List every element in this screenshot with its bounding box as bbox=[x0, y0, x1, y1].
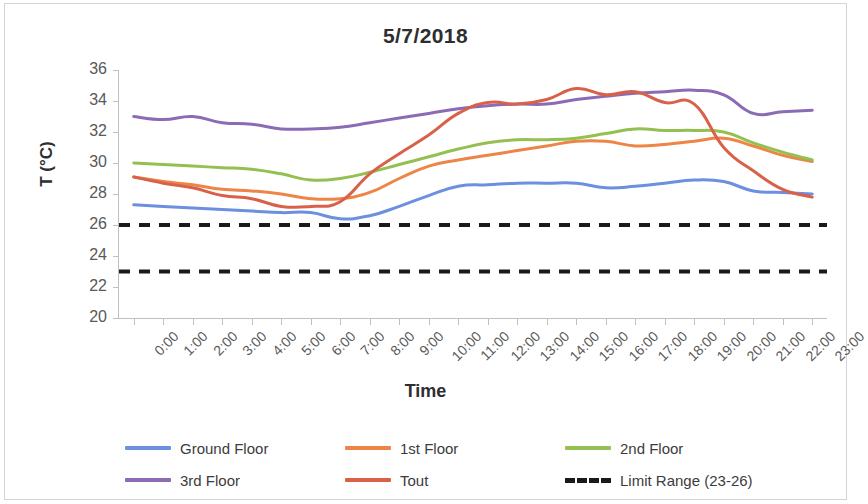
legend-swatch-icon bbox=[125, 446, 171, 450]
y-tick-label: 32 bbox=[69, 123, 107, 139]
x-tick-mark bbox=[163, 319, 164, 325]
x-tick-mark bbox=[399, 319, 400, 325]
x-tick-mark bbox=[222, 319, 223, 325]
x-tick-label: 6:00 bbox=[328, 328, 359, 359]
x-tick-mark bbox=[547, 319, 548, 325]
x-tick-label: 4:00 bbox=[269, 328, 300, 359]
x-tick-mark bbox=[812, 319, 813, 325]
x-tick-label: 16:00 bbox=[625, 328, 661, 364]
chart-title: 5/7/2018 bbox=[5, 24, 846, 48]
legend-item-tout[interactable]: Tout bbox=[345, 472, 565, 489]
legend-item-ground-floor[interactable]: Ground Floor bbox=[125, 440, 345, 457]
x-tick-label: 12:00 bbox=[507, 328, 543, 364]
x-tick-mark bbox=[252, 319, 253, 325]
legend-item-3rd-floor[interactable]: 3rd Floor bbox=[125, 472, 345, 489]
series-line-3rd-floor bbox=[134, 90, 813, 129]
x-tick-mark bbox=[340, 319, 341, 325]
y-tick-label: 36 bbox=[69, 61, 107, 77]
x-tick-label: 3:00 bbox=[239, 328, 270, 359]
legend-label: 1st Floor bbox=[400, 440, 458, 457]
x-tick-mark bbox=[488, 319, 489, 325]
legend-label: Tout bbox=[400, 472, 428, 489]
y-tick-label: 34 bbox=[69, 92, 107, 108]
legend-item-1st-floor[interactable]: 1st Floor bbox=[345, 440, 565, 457]
series-line-2nd-floor bbox=[134, 129, 813, 181]
legend-item-2nd-floor[interactable]: 2nd Floor bbox=[565, 440, 785, 457]
x-tick-label: 23:00 bbox=[832, 328, 868, 364]
x-axis-line bbox=[118, 318, 827, 319]
chart-legend: Ground Floor1st Floor2nd Floor3rd FloorT… bbox=[125, 432, 785, 496]
chart-container: 5/7/2018 T (°C) 363432302826242220 0:001… bbox=[4, 3, 847, 500]
x-tick-label: 14:00 bbox=[566, 328, 602, 364]
legend-swatch-icon bbox=[125, 478, 171, 482]
x-tick-label: 18:00 bbox=[684, 328, 720, 364]
x-tick-mark bbox=[193, 319, 194, 325]
x-tick-label: 11:00 bbox=[477, 328, 512, 363]
x-tick-mark bbox=[576, 319, 577, 325]
series-line-ground-floor bbox=[134, 180, 813, 219]
y-tick-label: 28 bbox=[69, 185, 107, 201]
x-tick-mark bbox=[635, 319, 636, 325]
x-tick-label: 20:00 bbox=[743, 328, 779, 364]
legend-row: Ground Floor1st Floor2nd Floor bbox=[125, 432, 785, 464]
x-tick-mark bbox=[753, 319, 754, 325]
x-tick-label: 13:00 bbox=[537, 328, 573, 364]
x-tick-label: 9:00 bbox=[416, 328, 447, 359]
x-tick-mark bbox=[134, 319, 135, 325]
legend-item-limit-range-23-26-[interactable]: Limit Range (23-26) bbox=[565, 472, 785, 489]
y-tick-label: 22 bbox=[69, 278, 107, 294]
x-tick-mark bbox=[370, 319, 371, 325]
x-tick-mark bbox=[311, 319, 312, 325]
legend-swatch-icon bbox=[345, 478, 391, 482]
x-tick-mark bbox=[429, 319, 430, 325]
legend-label: 2nd Floor bbox=[620, 440, 683, 457]
x-tick-label: 0:00 bbox=[151, 328, 182, 359]
x-tick-label: 5:00 bbox=[298, 328, 329, 359]
x-tick-label: 22:00 bbox=[802, 328, 838, 364]
x-tick-mark bbox=[724, 319, 725, 325]
legend-label: 3rd Floor bbox=[180, 472, 240, 489]
x-tick-mark bbox=[606, 319, 607, 325]
y-tick-label: 24 bbox=[69, 247, 107, 263]
y-axis-title: T (°C) bbox=[37, 104, 57, 224]
legend-label: Ground Floor bbox=[180, 440, 268, 457]
y-tick-label: 20 bbox=[69, 309, 107, 325]
x-tick-label: 2:00 bbox=[210, 328, 241, 359]
x-tick-mark bbox=[783, 319, 784, 325]
x-tick-mark bbox=[281, 319, 282, 325]
y-tick-label: 30 bbox=[69, 154, 107, 170]
plot-svg bbox=[119, 70, 827, 318]
x-tick-label: 7:00 bbox=[357, 328, 388, 359]
legend-swatch-icon bbox=[565, 478, 611, 483]
x-tick-label: 10:00 bbox=[448, 328, 484, 364]
x-tick-label: 15:00 bbox=[596, 328, 632, 364]
y-tick-label: 26 bbox=[69, 216, 107, 232]
x-tick-label: 8:00 bbox=[387, 328, 418, 359]
x-tick-label: 17:00 bbox=[655, 328, 691, 364]
x-tick-label: 21:00 bbox=[773, 328, 809, 364]
legend-label: Limit Range (23-26) bbox=[620, 472, 753, 489]
x-tick-mark bbox=[665, 319, 666, 325]
legend-swatch-icon bbox=[565, 446, 611, 450]
legend-swatch-icon bbox=[345, 446, 391, 450]
x-tick-mark bbox=[694, 319, 695, 325]
x-tick-mark bbox=[458, 319, 459, 325]
x-tick-mark bbox=[517, 319, 518, 325]
x-tick-label: 19:00 bbox=[714, 328, 750, 364]
x-tick-label: 1:00 bbox=[180, 328, 211, 359]
x-axis-title: Time bbox=[5, 381, 846, 402]
plot-area bbox=[119, 70, 827, 318]
legend-row: 3rd FloorToutLimit Range (23-26) bbox=[125, 464, 785, 496]
